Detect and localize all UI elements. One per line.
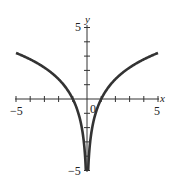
chart: −5 5 0 5 −5 x y xyxy=(0,0,173,184)
x-axis-label: x xyxy=(159,92,165,104)
origin-label: 0 xyxy=(90,102,96,116)
curve-right-branch xyxy=(88,53,158,171)
y-axis-label: y xyxy=(84,13,90,25)
curve-left-branch xyxy=(16,53,86,171)
y-max-label: 5 xyxy=(75,20,81,34)
y-min-label: −5 xyxy=(68,164,81,178)
x-max-label: 5 xyxy=(154,104,160,118)
x-min-label: −5 xyxy=(10,104,23,118)
axes xyxy=(15,25,159,172)
